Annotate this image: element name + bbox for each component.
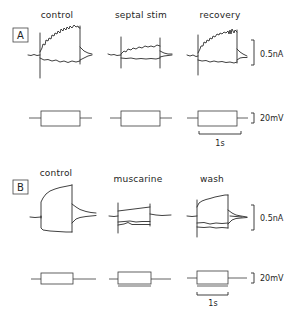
time-scale-label-b: 1s — [208, 299, 217, 308]
current-scale-label-a: 0.5nA — [260, 50, 284, 59]
voltage-command-control-b — [31, 273, 96, 284]
current-trace-control-b — [30, 185, 96, 232]
condition-label-recovery: recovery — [200, 10, 241, 20]
panel-b-label: B — [17, 182, 24, 193]
voltage-scale-label-a: 20mV — [260, 114, 284, 123]
voltage-scale-bar-a: 20mV — [251, 113, 284, 123]
current-trace-muscarine — [109, 203, 171, 233]
condition-label-wash: wash — [200, 174, 224, 184]
voltage-command-wash — [187, 271, 247, 286]
voltage-scale-label-b: 20mV — [260, 274, 284, 283]
current-trace-septal-stim — [108, 37, 172, 68]
voltage-scale-bar-b: 20mV — [251, 273, 284, 283]
time-scale-bar-b: 1s — [197, 292, 228, 308]
panel-a-label: A — [17, 30, 24, 41]
voltage-command-recovery — [187, 111, 248, 126]
current-trace-wash — [187, 195, 247, 237]
current-scale-bar-a: 0.5nA — [251, 40, 284, 65]
time-scale-label-a: 1s — [215, 139, 224, 148]
condition-label-septal-stim: septal stim — [115, 10, 167, 20]
condition-label-control-b: control — [40, 168, 73, 178]
voltage-command-control-a — [29, 111, 92, 126]
current-scale-label-b: 0.5nA — [260, 214, 284, 223]
panel-a: A control septal stim recovery — [13, 10, 284, 148]
condition-label-control: control — [41, 10, 74, 20]
electrophysiology-figure: A control septal stim recovery — [0, 0, 291, 314]
current-trace-control — [28, 25, 92, 78]
current-scale-bar-b: 0.5nA — [251, 205, 284, 230]
voltage-command-septal-stim — [110, 111, 172, 126]
current-trace-recovery — [187, 29, 247, 75]
panel-b: B control muscarine wash — [13, 168, 284, 308]
condition-label-muscarine: muscarine — [114, 174, 163, 184]
voltage-command-muscarine — [109, 272, 171, 286]
time-scale-bar-a: 1s — [199, 131, 241, 148]
